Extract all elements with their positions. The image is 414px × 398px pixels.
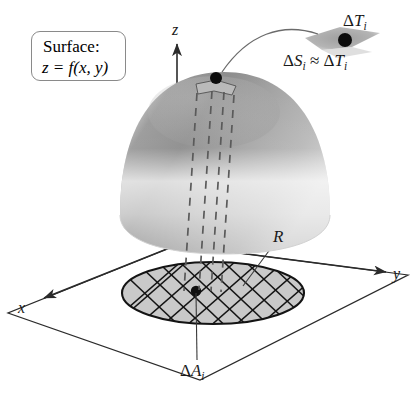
- delta-s-delta-glyph: Δ: [283, 51, 294, 70]
- delta-s-approx-delta-t-label: ΔSi ≈ ΔTi: [283, 52, 347, 72]
- delta-t-symbol: T: [354, 11, 363, 30]
- delta-a-symbol: A: [191, 361, 201, 380]
- region-label: R: [273, 228, 283, 245]
- surface-point-dot: [210, 72, 222, 84]
- surface-callout-equation: z = f(x, y): [42, 58, 108, 78]
- surface-callout-title: Surface:: [43, 37, 100, 57]
- delta-s-subscript: i: [302, 60, 305, 73]
- figure-canvas: Surface: z = f(x, y) z x y R ΔTi ΔSi ≈ Δ…: [0, 0, 414, 398]
- approx-relation-glyph: ≈: [310, 51, 319, 70]
- delta-t-subscript: i: [363, 20, 366, 33]
- tangent-patch-dot: [338, 33, 352, 47]
- delta-t-delta-glyph: Δ: [343, 11, 354, 30]
- delta-a-label: ΔAi: [180, 362, 205, 382]
- delta-a-delta-glyph: Δ: [180, 361, 191, 380]
- x-axis-label: x: [18, 300, 25, 316]
- y-axis-label: y: [393, 266, 400, 282]
- surface-dome: [120, 72, 330, 254]
- delta-a-subscript: i: [201, 370, 204, 383]
- surface-callout-box: Surface: z = f(x, y): [31, 31, 126, 81]
- z-axis-label: z: [172, 22, 178, 38]
- delta-t2-subscript: i: [344, 60, 347, 73]
- delta-t2-delta-glyph: Δ: [324, 51, 335, 70]
- region-R: [100, 238, 366, 360]
- delta-t-label: ΔTi: [343, 12, 367, 32]
- delta-t2-symbol: T: [334, 51, 343, 70]
